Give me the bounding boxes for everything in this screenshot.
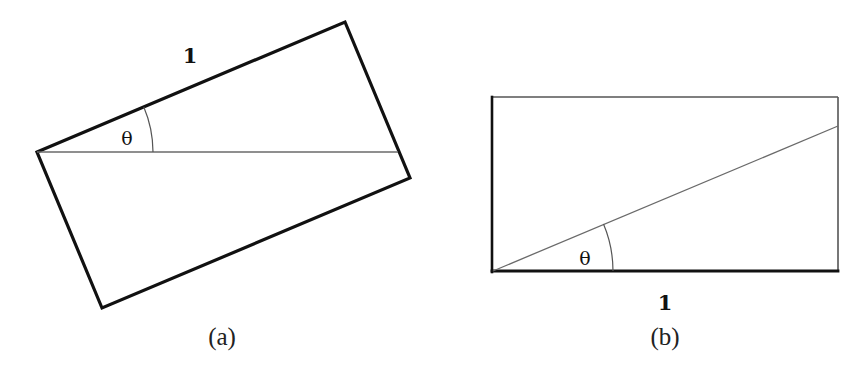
panel-b: θ 1 (b) [492, 97, 838, 351]
angle-label-b: θ [579, 247, 590, 269]
panel-a: θ 1 (a) [37, 22, 410, 351]
angle-label-a: θ [121, 127, 132, 149]
diagonal-line-b [493, 126, 838, 271]
rotated-rectangle [37, 22, 410, 308]
caption-b: (b) [650, 323, 679, 351]
angle-arc-a [144, 107, 153, 152]
geometry-figure: θ 1 (a) θ 1 (b) [0, 0, 867, 366]
angle-arc-b [604, 224, 614, 271]
caption-a: (a) [208, 323, 236, 351]
side-length-label-b: 1 [658, 290, 673, 315]
side-length-label-a: 1 [183, 43, 198, 68]
